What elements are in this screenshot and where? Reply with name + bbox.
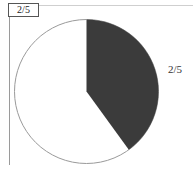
- chart-title: 2/5: [8, 3, 39, 17]
- slice-label: 2/5: [168, 63, 182, 75]
- pie-chart: [0, 0, 193, 172]
